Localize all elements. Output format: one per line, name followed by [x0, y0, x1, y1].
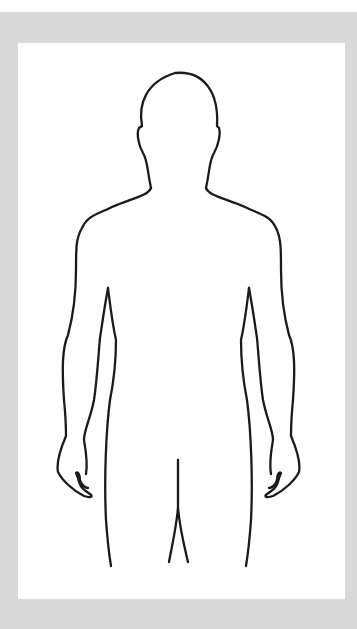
legs-split-right: [178, 508, 188, 562]
right-inner-arm: [249, 288, 273, 474]
head-outline: [141, 73, 220, 188]
body-outline-figure: [0, 0, 357, 629]
left-inner-arm: [84, 288, 108, 474]
head-outline-left: [138, 126, 151, 188]
left-arm-outer: [57, 188, 151, 497]
legs-split: [169, 460, 178, 562]
left-torso-side: [105, 288, 116, 566]
right-torso-side: [241, 288, 252, 566]
right-arm-outer: [206, 188, 300, 497]
